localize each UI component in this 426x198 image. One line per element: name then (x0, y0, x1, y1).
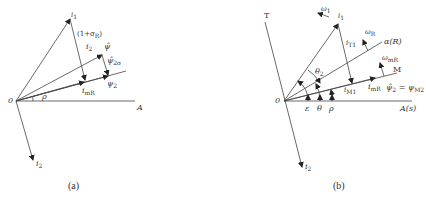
a-psi2-label: ψ2 (107, 80, 117, 89)
b-axis-label: A(s) (400, 105, 416, 113)
b-iM1-label: iM1 (344, 87, 356, 95)
b-rho-label: ρ (329, 105, 334, 113)
b-omegaR-label: ωR (365, 29, 375, 37)
b-epsilon-label: ε (305, 105, 309, 113)
a-i1-label: i1 (71, 12, 77, 20)
b-theta2-label: θ2 (315, 68, 324, 77)
rho-arc (33, 97, 34, 102)
a-psi-label: ψ̂ (104, 43, 110, 51)
i2-vector (16, 101, 33, 160)
b-alpha-label: α(R) (384, 38, 402, 46)
a-psi2sigma-label: ψ̂2σ (107, 57, 121, 66)
a-imR-label: imR (82, 87, 95, 96)
b-i1-label: i1 (338, 13, 344, 21)
b-iT1-label: iT1 (346, 40, 356, 48)
a-caption: (a) (68, 180, 79, 191)
a-coef-i2-label: i2 (86, 43, 92, 52)
a-rho-label: ρ (42, 93, 47, 101)
t-axis (265, 22, 302, 167)
epsilon-arc (298, 81, 308, 101)
b-t-axis-label: T (264, 12, 269, 20)
b-m-label: M (393, 66, 401, 74)
b-theta-label: θ (317, 105, 322, 113)
b-omegamR-label: ωmR (382, 55, 398, 63)
vector-diagram-canvas (0, 0, 426, 198)
b-imR-label: imR (368, 83, 381, 92)
b-psi-equation: ψ̂2 = ψM2 (386, 84, 424, 93)
panel-a-diagram (16, 19, 135, 160)
iM1-projection (338, 24, 352, 83)
a-origin-label: 0 (8, 97, 13, 105)
b-origin-label: 0 (275, 97, 280, 105)
a-axis-label: A (137, 104, 143, 112)
alpha-r-line (284, 42, 382, 101)
omegamR-arrow (380, 63, 384, 76)
b-omega1-label: ω1 (321, 6, 331, 14)
b-caption: (b) (333, 180, 345, 191)
omegaR-arrow (363, 40, 368, 51)
a-i2-label: i2 (36, 160, 42, 169)
b-i2-label: i2 (305, 163, 311, 172)
a-coef-label: (1+σR) (77, 31, 102, 39)
